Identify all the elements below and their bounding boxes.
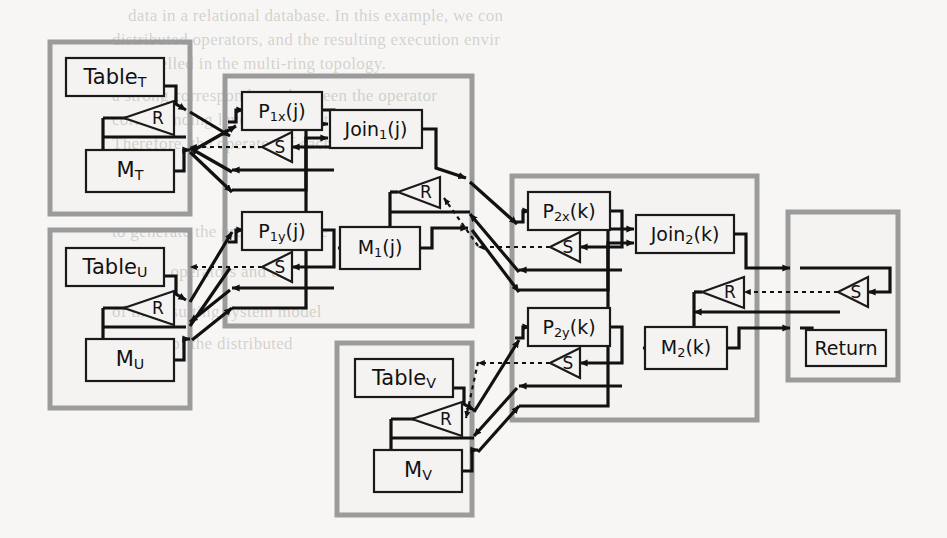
receive-label-v: R — [440, 409, 452, 429]
table-t-label: TableT — [82, 65, 146, 90]
send-label-return: S — [851, 282, 862, 302]
join1-label: Join1(j) — [344, 118, 408, 142]
p2x-label: P2x(k) — [542, 200, 595, 224]
send-label-p1x: S — [275, 137, 286, 157]
send-label-p2y: S — [563, 353, 574, 373]
p2y-label: P2y(k) — [542, 316, 595, 340]
figure-canvas: data in a relational database. In this e… — [0, 0, 947, 538]
send-label-p1y: S — [275, 257, 286, 277]
receive-label-2: R — [724, 282, 736, 302]
receive-label-u: R — [152, 298, 164, 318]
receive-label-t: R — [152, 108, 164, 128]
join2-label: Join2(k) — [650, 223, 720, 247]
m2-label: M2(k) — [661, 336, 711, 360]
send-label-p2x: S — [563, 237, 574, 257]
receive-label-1: R — [420, 182, 432, 202]
return-label: Return — [814, 337, 877, 359]
dataflow-diagram: TableT R MT TableU R MU TableV — [0, 0, 947, 538]
link-mv-to-p2y — [478, 406, 519, 452]
